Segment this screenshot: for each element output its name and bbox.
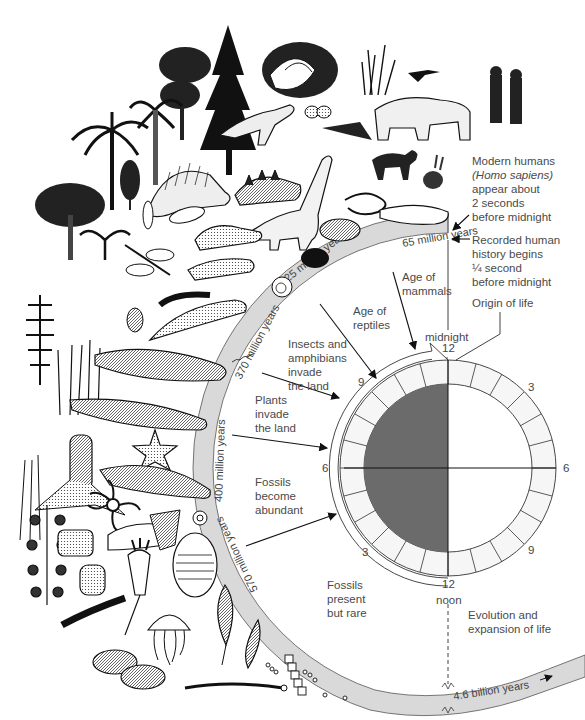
silverfish-insect-icon <box>143 201 153 229</box>
origin-of-life-annotation: Origin of life <box>472 296 533 310</box>
midnight-label: midnight <box>425 330 468 344</box>
leaf-frond-fossil-icon <box>218 585 233 665</box>
jellyfish-icon <box>148 615 190 665</box>
age-of-reptiles-label: Age of reptiles <box>353 304 390 332</box>
band-label-400my: 400 million years <box>212 419 227 502</box>
salamander-amphibian-icon <box>188 259 254 280</box>
horse-ancestor-icon <box>372 150 417 180</box>
age-of-mammals-label: Age of mammals <box>402 270 452 298</box>
clock-num-right-lower: 9 <box>528 544 534 556</box>
reeds-icon <box>362 45 395 95</box>
shark-fish-icon <box>70 399 207 430</box>
scorpion-icon <box>127 308 143 332</box>
worm-icon <box>62 598 125 625</box>
conifer-tree-icon <box>200 25 256 175</box>
hydroid-polyp-icon <box>125 538 150 635</box>
turtle-icon <box>320 219 360 241</box>
ammonite-shell-icon <box>272 277 292 297</box>
opossum-icon <box>301 248 329 268</box>
millipede-icon <box>160 294 210 305</box>
butterfly-icon <box>305 106 331 118</box>
horsetail-plant-icon <box>26 295 54 385</box>
clock-num-right-upper: 3 <box>528 381 534 393</box>
bird-icon <box>408 70 440 82</box>
fern-icon <box>80 231 130 260</box>
lepidodendron-tree-icon <box>35 183 105 260</box>
clock-num-left-middle: 6 <box>322 462 328 474</box>
disk-fossils-icon <box>93 650 165 689</box>
lobe-finned-fish-icon <box>95 349 226 381</box>
rabbit-icon <box>423 155 443 189</box>
deciduous-tree-icon <box>159 47 211 140</box>
pterosaur-icon <box>322 122 372 140</box>
stegosaurus-icon <box>235 170 301 205</box>
nautiloid-shell-icon <box>108 510 180 550</box>
plants-invade-label: Plants invade the land <box>255 393 296 435</box>
humans-icon <box>490 66 522 124</box>
insects-amphibians-label: Insects and amphibians invade the land <box>288 337 347 393</box>
starfish-icon <box>133 430 177 470</box>
reed-plant-icon <box>20 455 40 540</box>
snail-shell-icon <box>193 511 207 525</box>
thecodont-reptile-icon <box>195 226 262 250</box>
magnolia-flower-icon <box>262 42 338 98</box>
sponge-icon <box>58 530 93 556</box>
dragonfly-icon <box>125 245 174 276</box>
clock-num-left-upper: 9 <box>358 376 364 388</box>
modern-humans-annotation: Modern humans (Homo sapiens) appear abou… <box>472 154 555 224</box>
geologic-clock-diagram: 65 million years 225 million years 370 m… <box>0 0 585 720</box>
fossils-abundant-label: Fossils become abundant <box>255 475 303 517</box>
recorded-history-annotation: Recorded human history begins ¼ second b… <box>472 233 560 289</box>
evolution-expansion-annotation: Evolution and expansion of life <box>468 608 551 636</box>
clock-num-bottom: 12 <box>442 578 455 590</box>
segmented-worm-fossil-icon <box>185 684 287 691</box>
archaeocyathid-icon <box>80 565 105 595</box>
clock-num-right-middle: 6 <box>563 462 569 474</box>
noon-label: noon <box>436 593 462 607</box>
clock-num-left-lower: 3 <box>362 546 368 558</box>
tapir-elephant-ancestor-icon <box>375 98 470 140</box>
trilobite-icon <box>173 533 217 597</box>
cone-plant-icon <box>120 160 140 210</box>
fossils-rare-label: Fossils present but rare <box>327 578 367 620</box>
